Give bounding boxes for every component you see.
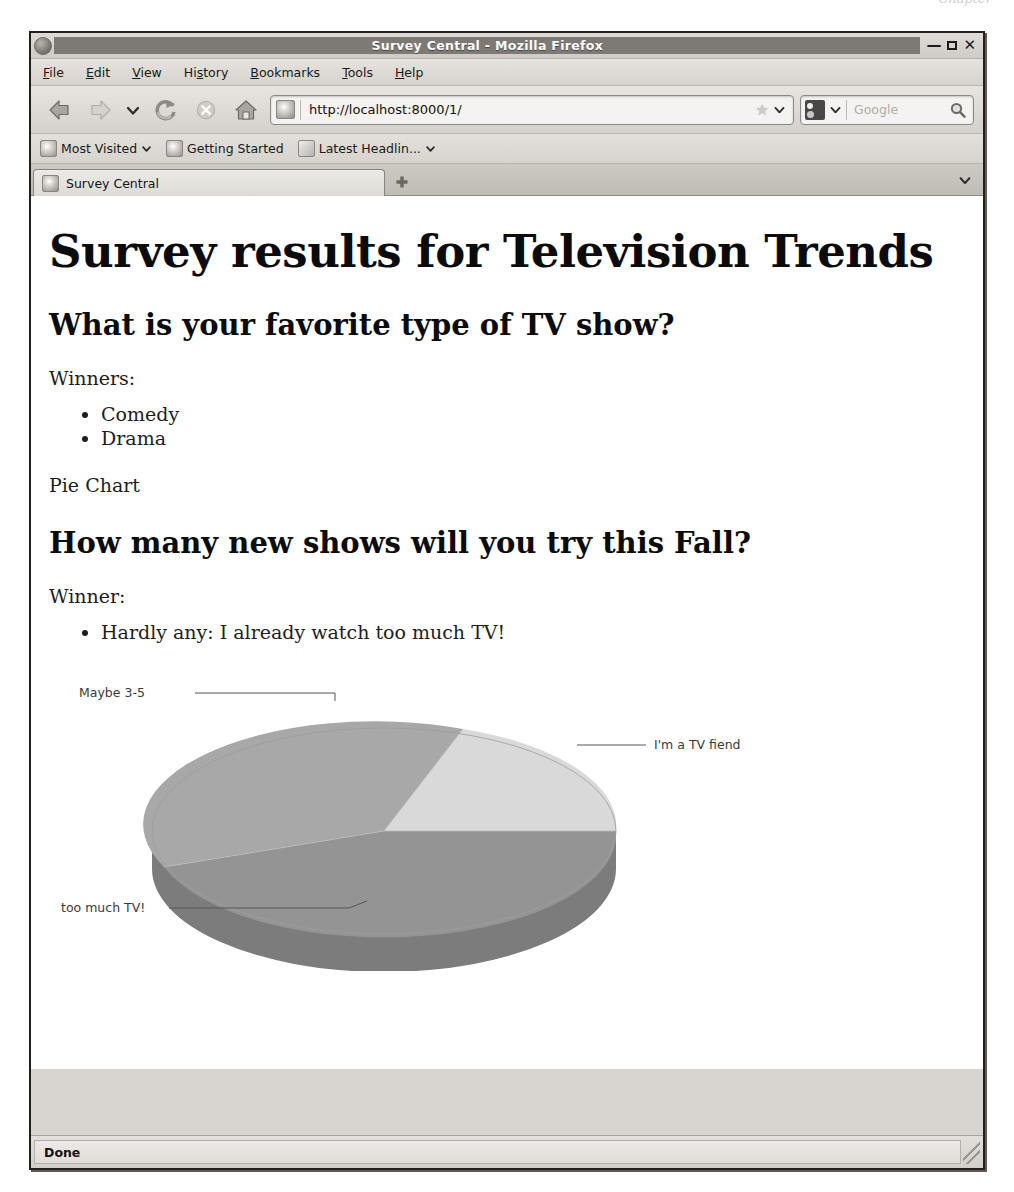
history-dropdown-button[interactable] (120, 92, 146, 128)
page-content: Survey results for Television Trends Wha… (31, 196, 983, 1069)
chevron-down-icon (141, 143, 152, 154)
tab-survey-central[interactable]: Survey Central (33, 169, 385, 196)
bookmark-label: Getting Started (187, 141, 284, 156)
status-text: Done (44, 1145, 80, 1160)
page-favicon-icon (42, 175, 59, 192)
title-bar: Survey Central - Mozilla Firefox — ✕ (31, 33, 983, 59)
google-icon[interactable] (805, 100, 825, 120)
menu-tools[interactable]: Tools (342, 65, 373, 80)
chevron-down-icon (829, 103, 842, 116)
menu-file[interactable]: File (43, 65, 64, 80)
question-2-lead: Winner: (49, 585, 965, 607)
chevron-down-icon (773, 103, 786, 116)
pie-chart-svg: Maybe 3-5 I'm a TV fiend too much TV! (49, 671, 969, 971)
forward-arrow-icon (86, 97, 114, 123)
pie-chart: Maybe 3-5 I'm a TV fiend too much TV! (49, 671, 969, 971)
plus-icon (394, 174, 410, 190)
back-button[interactable] (40, 92, 80, 128)
question-2-heading: How many new shows will you try this Fal… (49, 526, 965, 560)
address-bar[interactable]: http://localhost:8000/1/ ★ (270, 95, 794, 125)
pie-label-tv-fiend: I'm a TV fiend (654, 737, 741, 752)
title-bar-strip: Survey Central - Mozilla Firefox (54, 37, 920, 54)
list-item: Drama (101, 427, 965, 449)
book-page-header-text: Chapter (938, 0, 992, 6)
pie-label-maybe-3-5: Maybe 3-5 (79, 685, 145, 700)
forward-button[interactable] (80, 92, 120, 128)
minimize-button[interactable]: — (926, 38, 941, 53)
navigation-toolbar: http://localhost:8000/1/ ★ Google (31, 86, 983, 134)
firefox-page-icon (166, 140, 183, 157)
menu-history[interactable]: History (184, 65, 228, 80)
question-1-heading: What is your favorite type of TV show? (49, 308, 965, 342)
url-input[interactable]: http://localhost:8000/1/ (301, 102, 756, 117)
new-tab-button[interactable] (385, 168, 419, 195)
tab-strip: Survey Central (31, 164, 983, 196)
menu-view[interactable]: View (132, 65, 162, 80)
question-1-winners: Comedy Drama (49, 403, 965, 449)
page-title: Survey results for Television Trends (49, 225, 965, 278)
star-icon[interactable]: ★ (756, 101, 769, 119)
chevron-down-icon (958, 173, 972, 187)
question-1-lead: Winners: (49, 367, 965, 389)
resize-grip-icon[interactable] (963, 1140, 980, 1164)
reload-icon (152, 97, 180, 123)
magnifier-icon[interactable] (949, 101, 967, 119)
bookmark-most-visited[interactable]: Most Visited (40, 140, 152, 157)
home-icon (232, 97, 260, 123)
menu-edit[interactable]: Edit (86, 65, 110, 80)
question-1-chart-caption: Pie Chart (49, 474, 965, 496)
list-item: Hardly any: I already watch too much TV! (101, 621, 965, 643)
bookmark-label: Most Visited (61, 141, 137, 156)
search-bar[interactable]: Google (800, 95, 974, 125)
window-controls: — ✕ (922, 38, 983, 53)
back-arrow-icon (46, 97, 74, 123)
tab-label: Survey Central (66, 176, 159, 191)
menu-bar: File Edit View History Bookmarks Tools H… (31, 59, 983, 86)
menu-help[interactable]: Help (395, 65, 424, 80)
status-bar: Done (31, 1135, 983, 1168)
browser-window: Survey Central - Mozilla Firefox — ✕ Fil… (29, 31, 985, 1170)
maximize-button[interactable] (947, 41, 957, 50)
status-field: Done (34, 1140, 961, 1164)
bookmark-label: Latest Headlin... (319, 141, 421, 156)
list-all-tabs-button[interactable] (958, 173, 972, 190)
reload-button[interactable] (146, 92, 186, 128)
menu-bookmarks[interactable]: Bookmarks (250, 65, 320, 80)
bookmark-folder-icon (40, 140, 57, 157)
stop-icon (192, 97, 220, 123)
search-input[interactable]: Google (847, 102, 949, 117)
pie-label-too-much-tv: too much TV! (61, 900, 145, 915)
bookmarks-toolbar: Most Visited Getting Started Latest Head… (31, 134, 983, 164)
screenshot-root: Chapter Survey Central - Mozilla Firefox… (0, 0, 1014, 1192)
bookmark-latest-headlines[interactable]: Latest Headlin... (298, 140, 436, 157)
site-favicon-icon (276, 100, 295, 119)
bookmark-getting-started[interactable]: Getting Started (166, 140, 284, 157)
chevron-down-icon (125, 102, 141, 118)
close-button[interactable]: ✕ (963, 38, 976, 53)
home-button[interactable] (226, 92, 266, 128)
firefox-icon (34, 37, 52, 55)
window-title: Survey Central - Mozilla Firefox (371, 38, 603, 53)
callout-line-maybe (195, 693, 335, 701)
list-item: Comedy (101, 403, 965, 425)
chevron-down-icon (425, 143, 436, 154)
rss-feed-icon (298, 140, 315, 157)
stop-button[interactable] (186, 92, 226, 128)
question-2-winners: Hardly any: I already watch too much TV! (49, 621, 965, 643)
book-page-header: Chapter (0, 0, 1014, 14)
